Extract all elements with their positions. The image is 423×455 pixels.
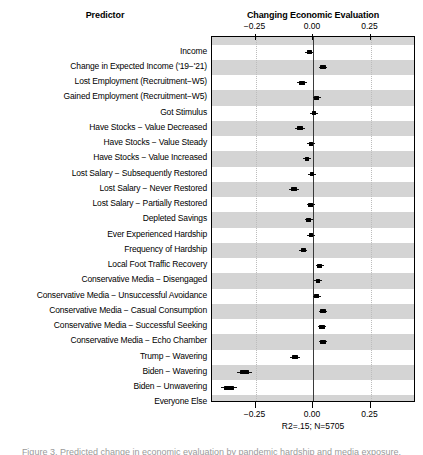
x-tick-mark-bottom-2: [370, 402, 371, 408]
point-estimate-dot: [307, 218, 311, 222]
predictor-label: Got Stimulus: [160, 107, 207, 118]
predictor-label: Lost Salary − Never Restored: [99, 183, 207, 194]
predictor-label: Biden − Unwavering: [133, 381, 207, 392]
point-estimate-dot: [316, 279, 320, 283]
point-estimate-dot: [227, 386, 231, 390]
forest-plot-figure: Predictor Changing Economic Evaluation −…: [0, 0, 423, 455]
predictor-label: Income: [180, 46, 207, 57]
predictor-label: Lost Salary − Subsequently Restored: [72, 168, 207, 179]
predictor-label: Have Stocks − Value Increased: [93, 152, 207, 163]
predictor-label: Conservative Media − Unsuccessful Avoida…: [37, 290, 207, 301]
point-estimate-dot: [315, 294, 319, 298]
x-axis-bottom-tick-labels: −0.250.000.25: [0, 409, 423, 421]
x-tick-mark-top-1: [312, 34, 313, 40]
predictor-label: Lost Employment (Recruitment−W5): [75, 76, 207, 87]
point-estimate-dot: [278, 401, 282, 402]
x-axis-top-tick-labels: −0.250.000.25: [0, 21, 423, 33]
plot-panel: [211, 36, 415, 402]
x-tick-mark-top-2: [370, 34, 371, 40]
predictor-label: Have Stocks − Value Decreased: [89, 122, 207, 133]
predictor-label: Frequency of Hardship: [124, 244, 207, 255]
zero-reference-line: [313, 37, 314, 401]
x-tick-mark-bottom-1: [312, 402, 313, 408]
x-tick-label-top-1: 0.00: [304, 21, 321, 31]
predictor-label: Conservative Media − Successful Seeking: [54, 320, 207, 331]
model-fit-statistics: R2=.15; N=5705: [211, 421, 415, 431]
predictor-label: Gained Employment (Recruitment−W5): [64, 91, 207, 102]
point-estimate: [276, 401, 283, 402]
predictor-label: Change in Expected Income ('19−'21): [70, 61, 207, 72]
predictor-label: Conservative Media − Casual Consumption: [49, 305, 207, 316]
figure-caption-text: Figure 3. Predicted change in economic e…: [0, 447, 423, 455]
point-estimate-dot: [315, 96, 319, 100]
predictor-label: Conservative Media − Disengaged: [81, 274, 207, 285]
point-estimate-dot: [305, 157, 309, 161]
point-estimate-dot: [318, 264, 322, 268]
point-estimate-dot: [320, 325, 324, 329]
x-gridline-1: [371, 37, 373, 401]
figure-caption-clipped: Figure 3. Predicted change in economic e…: [0, 447, 423, 455]
point-estimate-dot: [309, 142, 313, 146]
x-tick-label-top-2: 0.25: [361, 21, 378, 31]
predictor-label: Lost Salary − Partially Restored: [93, 198, 208, 209]
point-estimate-dot: [309, 203, 313, 207]
point-estimate-dot: [312, 111, 316, 115]
predictor-label: Depleted Savings: [143, 213, 207, 224]
outcome-column-header: Changing Economic Evaluation: [211, 10, 415, 20]
predictor-label: Trump − Wavering: [140, 351, 207, 362]
predictor-label: Everyone Else: [154, 396, 207, 407]
x-tick-label-bottom-2: 0.25: [361, 409, 378, 419]
predictor-label: Local Foot Traffic Recovery: [108, 259, 207, 270]
predictor-label: Conservative Media − Echo Chamber: [70, 335, 207, 346]
predictor-label: Have Stocks − Value Steady: [104, 137, 207, 148]
x-gridline-0: [256, 37, 258, 401]
x-tick-label-top-0: −0.25: [244, 21, 266, 31]
point-estimate-dot: [321, 340, 325, 344]
x-tick-mark-bottom-0: [255, 402, 256, 408]
predictor-label: Biden − Wavering: [142, 366, 207, 377]
x-tick-label-bottom-1: 0.00: [304, 409, 321, 419]
point-estimate-dot: [300, 81, 304, 85]
predictor-label: Ever Experienced Hardship: [107, 229, 207, 240]
x-tick-label-bottom-0: −0.25: [244, 409, 266, 419]
predictor-column-header: Predictor: [0, 10, 210, 20]
x-tick-mark-top-0: [255, 34, 256, 40]
